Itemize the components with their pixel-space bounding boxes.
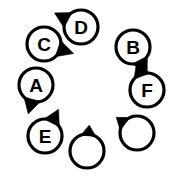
node-b-label: B	[126, 37, 140, 58]
node-b[interactable]: B	[116, 30, 150, 73]
node-e-label: E	[39, 126, 52, 147]
node-empty-bottom-pointer-icon	[81, 125, 96, 136]
node-c-label: C	[37, 34, 51, 55]
node-a-label: A	[29, 75, 43, 96]
diagram-canvas: DBFEAC	[0, 0, 182, 177]
node-f-label: F	[141, 80, 153, 101]
node-empty-bottom[interactable]	[70, 125, 104, 168]
node-d-label: D	[74, 17, 88, 38]
node-a[interactable]: A	[19, 68, 53, 114]
node-e[interactable]: E	[28, 109, 62, 153]
node-ring-diagram: DBFEAC	[0, 0, 182, 177]
node-empty-bottom-outline	[70, 134, 104, 168]
node-empty-right[interactable]	[116, 116, 154, 150]
